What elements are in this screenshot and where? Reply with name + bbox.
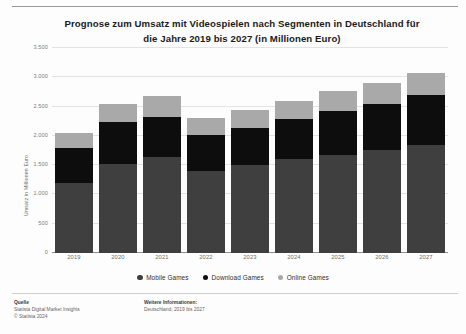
bar-segment-online[interactable]	[187, 118, 225, 135]
bar-segment-mobile[interactable]	[99, 164, 137, 253]
bar-segment-online[interactable]	[319, 91, 357, 112]
bar-segment-mobile[interactable]	[55, 183, 93, 253]
footer-source-heading: Quelle	[14, 299, 144, 306]
top-divider	[12, 6, 458, 7]
bar-segment-online[interactable]	[55, 133, 93, 148]
bar-group[interactable]	[143, 48, 181, 253]
bar-group[interactable]	[187, 48, 225, 253]
footer-source-line-2: © Statista 2024	[14, 313, 144, 320]
bar-segment-download[interactable]	[275, 119, 313, 159]
bar-segment-online[interactable]	[143, 96, 181, 117]
x-axis-tick-label: 2026	[363, 254, 401, 260]
bar-segment-mobile[interactable]	[407, 145, 445, 253]
bar-segment-download[interactable]	[231, 128, 269, 165]
bar-segment-download[interactable]	[55, 148, 93, 183]
y-axis-tick-label: 3.500	[34, 44, 49, 50]
y-axis-tick-label: 500	[38, 220, 48, 226]
legend-item-label: Online Games	[287, 274, 329, 281]
y-axis-tick-label: 1.000	[34, 190, 49, 196]
plot-area: 05001.0001.5002.0002.5003.0003.500	[52, 48, 448, 253]
bar-segment-mobile[interactable]	[187, 171, 225, 253]
footer-info-line-1: Deutschland; 2019 bis 2027	[144, 306, 344, 313]
bar-segment-download[interactable]	[143, 117, 181, 157]
footer: Quelle Statista Digital Market Insights …	[14, 299, 456, 321]
bar-group[interactable]	[231, 48, 269, 253]
legend-dot-icon	[203, 275, 209, 281]
bar-segment-online[interactable]	[363, 83, 401, 104]
bar-segment-mobile[interactable]	[319, 155, 357, 253]
bar-segment-online[interactable]	[407, 73, 445, 95]
title-line-1: Prognose zum Umsatz mit Videospielen nac…	[44, 16, 440, 31]
bar-series-container	[52, 48, 448, 253]
chart-page: Prognose zum Umsatz mit Videospielen nac…	[0, 0, 466, 334]
bar-segment-online[interactable]	[99, 104, 137, 122]
bar-group[interactable]	[363, 48, 401, 253]
bar-segment-online[interactable]	[231, 110, 269, 128]
y-axis-tick-label: 3.000	[34, 73, 49, 79]
x-axis-tick-label: 2022	[187, 254, 225, 260]
footer-divider	[12, 293, 458, 294]
y-axis-tick-label: 2.500	[34, 103, 49, 109]
bar-segment-mobile[interactable]	[231, 165, 269, 253]
y-axis-tick-label: 1.500	[34, 161, 49, 167]
page-title: Prognose zum Umsatz mit Videospielen nac…	[44, 16, 440, 46]
footer-source: Quelle Statista Digital Market Insights …	[14, 299, 144, 321]
bar-segment-download[interactable]	[99, 122, 137, 164]
title-line-2: die Jahre 2019 bis 2027 (in Millionen Eu…	[44, 31, 440, 46]
legend-item[interactable]: Online Games	[278, 274, 329, 281]
x-axis-tick-label: 2023	[231, 254, 269, 260]
legend-item-label: Download Games	[212, 274, 264, 281]
bar-group[interactable]	[407, 48, 445, 253]
x-axis-tick-labels: 201920202021202220232024202520262027	[52, 254, 448, 260]
x-axis-tick-label: 2019	[55, 254, 93, 260]
chart-area: Umsatz in Millionen Euro 05001.0001.5002…	[14, 48, 452, 260]
footer-source-line-1: Statista Digital Market Insights	[14, 306, 144, 313]
x-axis-tick-label: 2021	[143, 254, 181, 260]
bar-segment-download[interactable]	[187, 135, 225, 171]
bar-segment-download[interactable]	[407, 95, 445, 144]
bar-segment-mobile[interactable]	[275, 159, 313, 253]
bar-segment-online[interactable]	[275, 101, 313, 120]
bar-segment-download[interactable]	[363, 104, 401, 150]
x-axis-tick-label: 2027	[407, 254, 445, 260]
chart-legend: Mobile GamesDownload GamesOnline Games	[0, 274, 466, 281]
bar-group[interactable]	[319, 48, 357, 253]
legend-item[interactable]: Mobile Games	[137, 274, 188, 281]
x-axis-tick-label: 2025	[319, 254, 357, 260]
legend-dot-icon	[137, 275, 143, 281]
bar-group[interactable]	[55, 48, 93, 253]
x-axis-tick-label: 2024	[275, 254, 313, 260]
bar-segment-mobile[interactable]	[143, 157, 181, 253]
legend-dot-icon	[278, 275, 284, 281]
y-axis-title: Umsatz in Millionen Euro	[14, 48, 28, 253]
y-axis-title-text: Umsatz in Millionen Euro	[23, 155, 29, 216]
footer-info: Weitere Informationen: Deutschland; 2019…	[144, 299, 344, 321]
bar-segment-download[interactable]	[319, 111, 357, 154]
bar-group[interactable]	[99, 48, 137, 253]
x-axis-tick-label: 2020	[99, 254, 137, 260]
y-axis-tick-label: 2.000	[34, 132, 49, 138]
legend-item-label: Mobile Games	[146, 274, 188, 281]
y-axis-tick-label: 0	[45, 249, 48, 255]
footer-info-heading: Weitere Informationen:	[144, 299, 344, 306]
bar-segment-mobile[interactable]	[363, 150, 401, 253]
legend-item[interactable]: Download Games	[203, 274, 264, 281]
bar-group[interactable]	[275, 48, 313, 253]
